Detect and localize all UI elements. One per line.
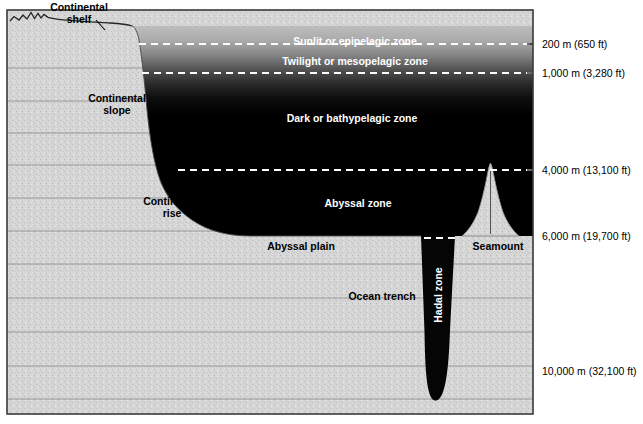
water-body — [132, 26, 533, 240]
diagram-canvas — [0, 0, 643, 424]
ocean-zones-diagram: Sunlit or epipelagic zone Twilight or me… — [0, 0, 643, 424]
